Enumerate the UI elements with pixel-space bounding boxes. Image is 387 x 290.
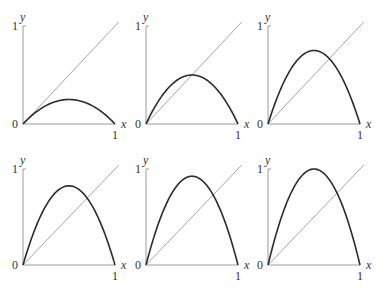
origin-label: 0	[135, 117, 141, 131]
y-axis-label: y	[142, 153, 149, 167]
origin-label: 0	[257, 258, 263, 272]
origin-label: 0	[135, 258, 141, 272]
x-axis-label: x	[365, 258, 372, 272]
diagonal-line	[23, 22, 119, 124]
x-axis-label: x	[243, 258, 250, 272]
plot-panel-2: 011xy	[135, 10, 250, 142]
origin-label: 0	[12, 258, 18, 272]
x-axis-label: x	[120, 258, 127, 272]
x-tick-label-1: 1	[235, 128, 241, 142]
diagonal-line	[146, 165, 242, 265]
plot-panel-3: 011xy	[257, 10, 372, 142]
x-tick-label-1: 1	[357, 128, 363, 142]
x-axis-label: x	[120, 117, 127, 131]
y-axis-label: y	[264, 153, 271, 167]
plot-panel-6: 011xy	[257, 153, 372, 283]
diagonal-line	[23, 165, 119, 265]
plot-panel-4: 011xy	[12, 153, 127, 283]
y-axis-label: y	[142, 10, 149, 24]
y-tick-label-1: 1	[257, 19, 263, 33]
y-tick-label-1: 1	[257, 162, 263, 176]
logistic-curve	[146, 75, 238, 124]
diagonal-line	[146, 22, 242, 124]
y-tick-label-1: 1	[12, 19, 18, 33]
x-tick-label-1: 1	[112, 128, 118, 142]
y-axis-label: y	[264, 10, 271, 24]
logistic-curve	[146, 176, 238, 265]
y-tick-label-1: 1	[135, 19, 141, 33]
diagonal-line	[268, 22, 364, 124]
logistic-curve	[268, 51, 360, 125]
origin-label: 0	[257, 117, 263, 131]
y-axis-label: y	[19, 10, 26, 24]
y-tick-label-1: 1	[12, 162, 18, 176]
plot-panel-1: 011xy	[12, 10, 127, 142]
x-tick-label-1: 1	[112, 269, 118, 283]
plot-panel-5: 011xy	[135, 153, 250, 283]
x-axis-label: x	[243, 117, 250, 131]
x-axis-label: x	[365, 117, 372, 131]
logistic-curve	[23, 186, 115, 265]
origin-label: 0	[12, 117, 18, 131]
logistic-map-figure: 011xy011xy011xy011xy011xy011xy	[0, 0, 387, 290]
logistic-curve	[23, 100, 115, 125]
x-tick-label-1: 1	[357, 269, 363, 283]
x-tick-label-1: 1	[235, 269, 241, 283]
y-axis-label: y	[19, 153, 26, 167]
y-tick-label-1: 1	[135, 162, 141, 176]
